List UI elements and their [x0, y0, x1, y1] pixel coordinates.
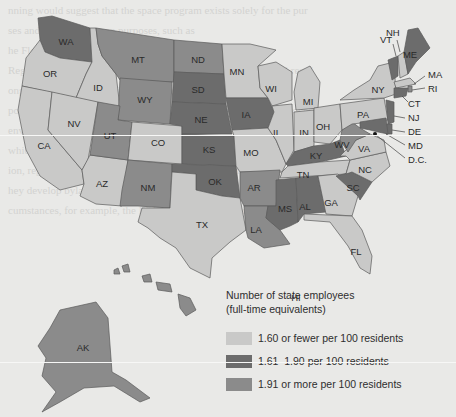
state-hi-1[interactable]: [114, 268, 120, 274]
label-ga: GA: [324, 197, 338, 208]
callout-de: [392, 130, 405, 132]
callout-ri: [412, 88, 425, 90]
legend-swatch-dark: [226, 355, 252, 368]
state-fl[interactable]: [304, 214, 372, 274]
label-ks: KS: [203, 144, 216, 155]
label-fl: FL: [350, 246, 361, 257]
state-ct[interactable]: [394, 88, 408, 98]
state-hi-2[interactable]: [122, 264, 130, 272]
scan-line-artifact: [0, 362, 456, 363]
legend-item-mid: 1.61–1.90 per 100 residents: [226, 351, 403, 371]
label-or: OR: [43, 68, 57, 79]
state-ri[interactable]: [408, 86, 412, 92]
label-nh: NH: [386, 27, 400, 38]
legend: Number of state employees (full-time equ…: [226, 288, 403, 397]
callout-nj: [394, 116, 405, 118]
label-nj: NJ: [408, 112, 420, 123]
state-ny[interactable]: [340, 62, 396, 100]
state-hi-3[interactable]: [142, 274, 152, 282]
label-ar: AR: [247, 182, 260, 193]
label-ky: KY: [310, 150, 323, 161]
label-mn: MN: [230, 66, 245, 77]
label-ok: OK: [208, 176, 222, 187]
label-ms: MS: [278, 203, 292, 214]
label-wy: WY: [137, 94, 153, 105]
legend-item-low: 1.60 or fewer per 100 residents: [226, 328, 403, 348]
label-co: CO: [151, 137, 165, 148]
label-nv: NV: [67, 118, 81, 129]
state-hi-5[interactable]: [178, 294, 196, 316]
label-ma: MA: [428, 69, 443, 80]
label-ri: RI: [428, 83, 438, 94]
label-nd: ND: [191, 54, 205, 65]
scan-line-artifact: [0, 135, 456, 136]
label-ak: AK: [77, 342, 90, 353]
label-ia: IA: [242, 109, 252, 120]
label-tn: TN: [297, 169, 310, 180]
callout-ma: [414, 76, 425, 84]
label-az: AZ: [96, 178, 108, 189]
label-pa: PA: [357, 109, 370, 120]
label-ny: NY: [371, 84, 385, 95]
state-hi-4[interactable]: [156, 282, 172, 292]
label-id: ID: [93, 82, 103, 93]
state-ak[interactable]: [38, 302, 150, 412]
label-ca: CA: [37, 140, 51, 151]
label-wi: WI: [265, 83, 277, 94]
label-oh: OH: [316, 121, 330, 132]
label-wv: WV: [334, 139, 350, 150]
label-mt: MT: [131, 54, 145, 65]
label-dc: D.C.: [408, 154, 427, 165]
label-al: AL: [299, 201, 311, 212]
state-ma[interactable]: [394, 78, 416, 88]
label-wa: WA: [59, 36, 75, 47]
label-mi: MI: [303, 96, 314, 107]
legend-title: Number of state employees (full-time equ…: [226, 288, 403, 316]
legend-swatch-medium: [226, 378, 252, 391]
callout-vt: [393, 44, 396, 56]
label-ct: CT: [408, 98, 421, 109]
label-va: VA: [358, 143, 371, 154]
legend-swatch-light: [226, 332, 252, 345]
legend-item-high: 1.91 or more per 100 residents: [226, 374, 403, 394]
label-la: LA: [250, 224, 262, 235]
label-nc: NC: [358, 164, 372, 175]
label-nm: NM: [141, 182, 156, 193]
label-ne: NE: [194, 114, 207, 125]
callout-nh: [397, 40, 400, 52]
label-mo: MO: [243, 147, 258, 158]
label-md: MD: [408, 140, 423, 151]
label-sc: SC: [346, 182, 359, 193]
label-sd: SD: [191, 84, 204, 95]
label-me: ME: [403, 49, 417, 60]
label-tx: TX: [196, 219, 209, 230]
